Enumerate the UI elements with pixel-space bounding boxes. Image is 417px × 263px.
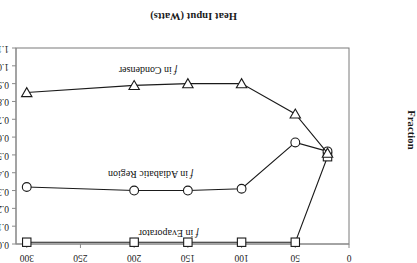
y-axis-title: Fraction xyxy=(406,90,417,170)
data-point-circle xyxy=(130,186,139,195)
series-label-symbol: f xyxy=(190,169,193,180)
series-label-text: in Adiabatic Region xyxy=(108,169,191,180)
data-point-circle xyxy=(237,184,246,193)
y-tick-label: 0.8 xyxy=(0,97,9,107)
y-tick-label: 1.1 xyxy=(0,44,9,54)
series-label-text: in Evaporator xyxy=(139,228,196,239)
data-point-square xyxy=(184,238,192,246)
data-point-square xyxy=(130,238,138,246)
data-point-triangle-down xyxy=(290,109,300,118)
data-point-square xyxy=(237,238,245,246)
x-tick-label: 300 xyxy=(7,253,47,263)
y-tick-label: 0.9 xyxy=(0,80,9,90)
y-tick-label: 0.0 xyxy=(0,240,9,250)
y-tick-label: 0.3 xyxy=(0,187,9,197)
x-axis-title: Heat Input (Watts) xyxy=(0,11,387,22)
x-tick-label: 50 xyxy=(275,253,315,263)
series-label-symbol: f xyxy=(174,65,177,76)
y-tick-label: 0.1 xyxy=(0,222,9,232)
data-point-square xyxy=(23,238,31,246)
series-label: f in Evaporator xyxy=(139,228,199,239)
y-tick-label: 0.4 xyxy=(0,169,9,179)
y-tick-label: 0.2 xyxy=(0,204,9,214)
data-point-square xyxy=(291,238,299,246)
x-tick-label: 100 xyxy=(222,253,262,263)
series-label: f in Condenser xyxy=(119,65,177,76)
y-tick-label: 0.6 xyxy=(0,133,9,143)
series-label-text: in Condenser xyxy=(119,65,175,76)
x-tick-label: 200 xyxy=(114,253,154,263)
x-tick-label: 150 xyxy=(168,253,208,263)
x-tick-label: 250 xyxy=(60,253,100,263)
series-label: f in Adiabatic Region xyxy=(108,169,193,180)
data-point-circle xyxy=(22,183,31,192)
series-label-symbol: f xyxy=(196,228,199,239)
data-point-circle xyxy=(183,186,192,195)
x-tick-label: 0 xyxy=(329,253,369,263)
y-tick-label: 1.0 xyxy=(0,62,9,72)
data-point-circle xyxy=(291,138,300,147)
y-tick-label: 0.7 xyxy=(0,115,9,125)
y-tick-label: 0.5 xyxy=(0,151,9,161)
